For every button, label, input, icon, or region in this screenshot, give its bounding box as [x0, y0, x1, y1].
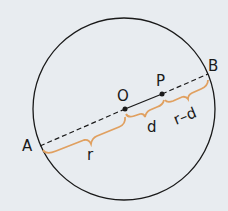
label-b: B — [208, 57, 218, 75]
circle-diagram: A B O P r d r–d — [0, 0, 228, 211]
label-p: P — [156, 72, 165, 90]
brace-r — [43, 117, 125, 153]
label-d: d — [147, 118, 157, 136]
segment-p-b — [162, 74, 208, 94]
brace-d — [126, 100, 164, 117]
label-o: O — [117, 87, 129, 105]
point-p — [160, 92, 165, 97]
label-r: r — [87, 146, 94, 164]
label-r-minus-d: r–d — [171, 103, 199, 128]
point-o — [123, 107, 128, 112]
label-a: A — [22, 137, 33, 155]
